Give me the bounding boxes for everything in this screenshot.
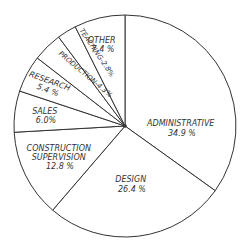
label-other: OTHER 7.4 % xyxy=(88,36,118,54)
pie-chart: ADMINISTRATIVE 34.9 % DESIGN 26.4 % CONS… xyxy=(0,0,248,247)
label-sales: SALES 6.0% xyxy=(32,107,60,125)
label-design: DESIGN 26.4 % xyxy=(115,175,148,194)
pie-center-dot xyxy=(123,124,127,128)
